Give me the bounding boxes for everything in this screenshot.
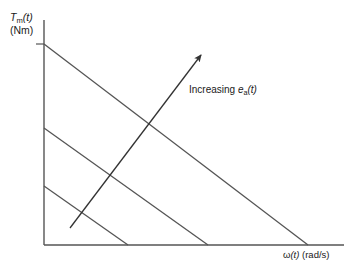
characteristic-line-low — [44, 186, 128, 245]
y-axis-label-line1: Tm(t) — [10, 12, 33, 25]
increasing-voltage-annotation: Increasing ea(t) — [189, 85, 257, 96]
y-axis-label-line2: (Nm) — [10, 25, 33, 36]
x-axis-label: ω(t) (rad/s) — [283, 250, 329, 260]
y-axis-label: Tm(t) (Nm) — [10, 12, 33, 36]
annotation-arg: (t) — [247, 84, 256, 95]
x-axis-units: (rad/s) — [302, 249, 329, 260]
y-axis-arg: (t) — [23, 11, 33, 23]
torque-speed-figure: Tm(t) (Nm) ω(t) (rad/s) Increasing ea(t) — [0, 0, 358, 276]
plot-canvas — [0, 0, 358, 276]
annotation-prefix: Increasing — [189, 84, 238, 95]
characteristic-line-high — [44, 44, 308, 245]
characteristic-line-mid — [44, 128, 208, 245]
increasing-voltage-arrow — [70, 55, 201, 228]
